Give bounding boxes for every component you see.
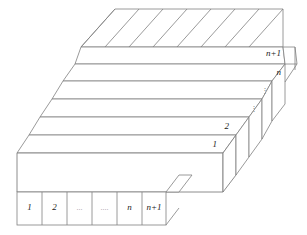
column-label-2: 2: [42, 203, 67, 212]
strip-dots-upper: [52, 81, 272, 99]
row-label-dots-upper: ⋮: [243, 87, 269, 95]
row-label-n: n: [245, 68, 281, 77]
strip-dots-lower: [40, 99, 262, 117]
row-label-dots-lower: ⋮: [232, 105, 258, 113]
back-face-panel: [81, 9, 283, 47]
column-label-ellipsis-1: ...: [67, 204, 92, 212]
row-label-n-plus-1: n+1: [245, 49, 281, 58]
column-label-n: n: [117, 203, 142, 212]
isometric-slab-diagram: [0, 0, 307, 235]
front-slab-face: [17, 153, 223, 192]
column-label-ellipsis-2: ....: [92, 204, 117, 212]
step-edge-far-right-lower: [285, 64, 297, 82]
figure-container: n+1 n ⋮ ⋮ 2 1 1 2 ... .... n n+1: [0, 0, 307, 235]
column-label-1: 1: [17, 203, 42, 212]
column-label-n-plus-1: n+1: [142, 203, 166, 212]
row-label-1: 1: [191, 140, 217, 149]
row-label-2: 2: [203, 122, 229, 131]
index-row-tail-lower: [166, 208, 179, 225]
